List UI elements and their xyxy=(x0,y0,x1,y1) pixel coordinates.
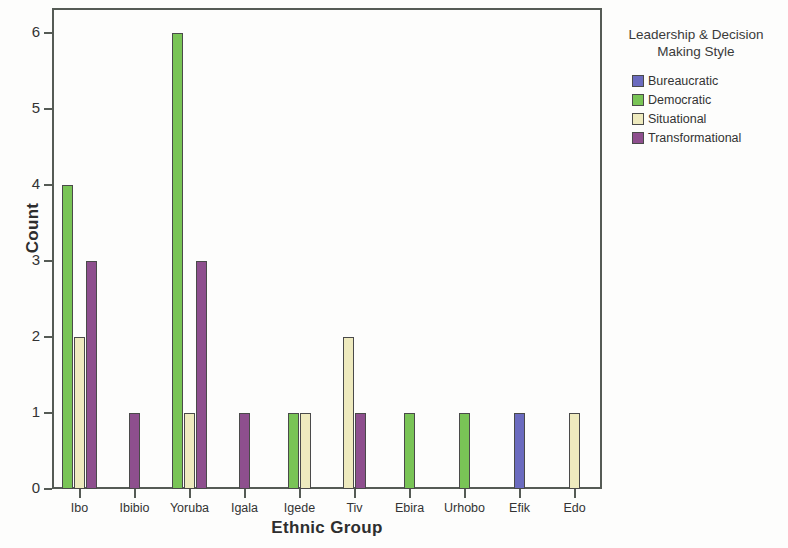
bar-chart: Count 0123456 IboIbibioYorubaIgalaIgedeT… xyxy=(0,0,788,548)
legend-item: Transformational xyxy=(632,129,786,146)
y-axis-tick-mark xyxy=(44,336,52,338)
legend-title: Leadership & Decision Making Style xyxy=(610,26,782,60)
x-axis-tick-mark xyxy=(409,489,411,498)
bar xyxy=(300,413,311,489)
bar xyxy=(196,261,207,489)
y-axis-tick-mark xyxy=(44,412,52,414)
legend-swatch-icon xyxy=(632,113,644,125)
x-axis-tick-mark xyxy=(354,489,356,498)
bar xyxy=(514,413,525,489)
legend-item-label: Democratic xyxy=(648,93,711,107)
legend-items: BureaucraticDemocraticSituationalTransfo… xyxy=(610,72,786,146)
y-axis-tick-label: 1 xyxy=(32,402,40,422)
y-axis-tick-label: 4 xyxy=(32,174,40,194)
y-axis-tick-label: 3 xyxy=(32,250,40,270)
y-axis-tick-mark xyxy=(44,32,52,34)
legend-swatch-icon xyxy=(632,132,644,144)
x-axis-tick-mark xyxy=(244,489,246,498)
bar xyxy=(239,413,250,489)
bar xyxy=(288,413,299,489)
y-axis-tick-label: 2 xyxy=(32,326,40,346)
y-axis-tick-label: 0 xyxy=(32,478,40,498)
legend-item-label: Bureaucratic xyxy=(648,74,718,88)
legend-item: Bureaucratic xyxy=(632,72,786,89)
x-axis-tick-mark xyxy=(79,489,81,498)
legend-item: Democratic xyxy=(632,91,786,108)
legend-item: Situational xyxy=(632,110,786,127)
legend: Leadership & Decision Making Style Burea… xyxy=(610,26,786,148)
bar xyxy=(343,337,354,489)
x-axis-tick-mark xyxy=(299,489,301,498)
legend-title-line-1: Leadership & Decision xyxy=(610,26,782,43)
legend-title-line-2: Making Style xyxy=(610,43,782,60)
y-axis-tick-mark xyxy=(44,108,52,110)
y-axis-tick-mark xyxy=(44,488,52,490)
x-axis-tick-mark xyxy=(134,489,136,498)
x-axis-tick-mark xyxy=(574,489,576,498)
x-axis-tick-mark xyxy=(519,489,521,498)
bar xyxy=(404,413,415,489)
bar xyxy=(172,33,183,489)
y-axis-tick-label: 5 xyxy=(32,98,40,118)
legend-item-label: Situational xyxy=(648,112,706,126)
x-axis-tick-mark xyxy=(464,489,466,498)
y-axis-tick-mark xyxy=(44,184,52,186)
legend-item-label: Transformational xyxy=(648,131,741,145)
bar xyxy=(184,413,195,489)
y-axis-tick-label: 6 xyxy=(32,22,40,42)
bar xyxy=(355,413,366,489)
x-axis-title: Ethnic Group xyxy=(52,518,602,538)
bar xyxy=(459,413,470,489)
x-axis-tick-label: Edo xyxy=(530,501,620,515)
bar xyxy=(569,413,580,489)
bar xyxy=(74,337,85,489)
x-axis-tick-mark xyxy=(189,489,191,498)
legend-swatch-icon xyxy=(632,75,644,87)
bar xyxy=(129,413,140,489)
bar xyxy=(62,185,73,489)
bar xyxy=(86,261,97,489)
legend-swatch-icon xyxy=(632,94,644,106)
y-axis-tick-mark xyxy=(44,260,52,262)
